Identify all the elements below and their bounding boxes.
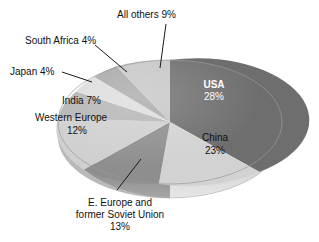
label-western-europe: Western Europe bbox=[35, 112, 108, 123]
pie-chart-svg: All others 9% South Africa 4% Japan 4% I… bbox=[0, 0, 319, 242]
label-e-europe-line1: E. Europe and bbox=[88, 197, 152, 208]
label-south-africa: South Africa 4% bbox=[25, 35, 96, 46]
label-all-others: All others 9% bbox=[117, 9, 176, 20]
label-western-europe-value: 12% bbox=[67, 125, 87, 136]
label-usa-value: 28% bbox=[204, 91, 224, 102]
label-india: India 7% bbox=[62, 95, 101, 106]
pie-chart-figure: All others 9% South Africa 4% Japan 4% I… bbox=[0, 0, 319, 242]
label-china-value: 23% bbox=[205, 145, 225, 156]
label-china: China bbox=[202, 132, 229, 143]
label-e-europe-value: 13% bbox=[110, 221, 130, 232]
label-e-europe-line2: former Soviet Union bbox=[76, 209, 164, 220]
label-japan: Japan 4% bbox=[10, 66, 55, 77]
label-usa: USA bbox=[203, 79, 224, 90]
